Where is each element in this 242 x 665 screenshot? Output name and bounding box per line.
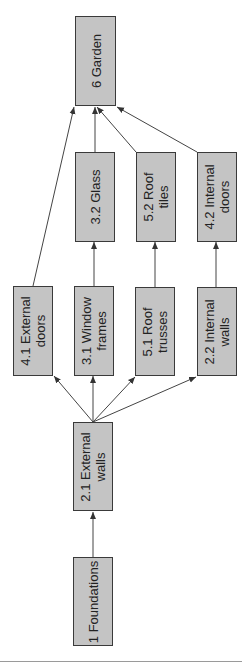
node-label: 2.1 External walls — [78, 432, 108, 501]
node-label: 3.2 Glass — [88, 170, 103, 225]
bottom-rule-divider — [0, 661, 242, 662]
edge-group — [33, 107, 216, 557]
edge-arrow-4.1-to-6 — [33, 107, 74, 286]
node-glass: 3.2 Glass — [75, 152, 115, 242]
edge-arrow-2.1-to-4.1 — [54, 376, 93, 422]
node-label: 4.2 Internal doors — [202, 164, 232, 229]
node-label: 3.1 Window frames — [79, 297, 109, 365]
node-external-walls: 2.1 External walls — [73, 422, 113, 511]
node-internal-walls: 2.2 Internal walls — [197, 287, 237, 376]
node-window-frames: 3.1 Window frames — [74, 286, 114, 376]
node-label: 5.2 Roof tiles — [141, 172, 171, 221]
node-external-doors: 4.1 External doors — [13, 286, 53, 376]
precedence-diagram: 6 Garden 3.2 Glass 5.2 Roof tiles 4.2 In… — [0, 0, 242, 665]
node-label: 5.1 Roof trusses — [140, 307, 170, 356]
node-label: 4.1 External doors — [18, 296, 48, 365]
node-label: 6 Garden — [88, 34, 103, 88]
edge-arrow-5.2-to-6 — [97, 107, 136, 152]
node-roof-tiles: 5.2 Roof tiles — [136, 152, 176, 242]
node-label: 1 Foundations — [86, 560, 101, 642]
node-internal-doors: 4.2 Internal doors — [197, 152, 237, 242]
node-garden: 6 Garden — [75, 16, 116, 106]
edge-arrow-2.1-to-2.2 — [93, 377, 196, 422]
node-label: 2.2 Internal walls — [202, 299, 232, 364]
node-foundations: 1 Foundations — [73, 557, 113, 646]
node-roof-trusses: 5.1 Roof trusses — [135, 287, 175, 376]
edge-arrow-4.2-to-6 — [117, 107, 197, 152]
edge-arrow-2.1-to-5.1 — [93, 377, 135, 422]
